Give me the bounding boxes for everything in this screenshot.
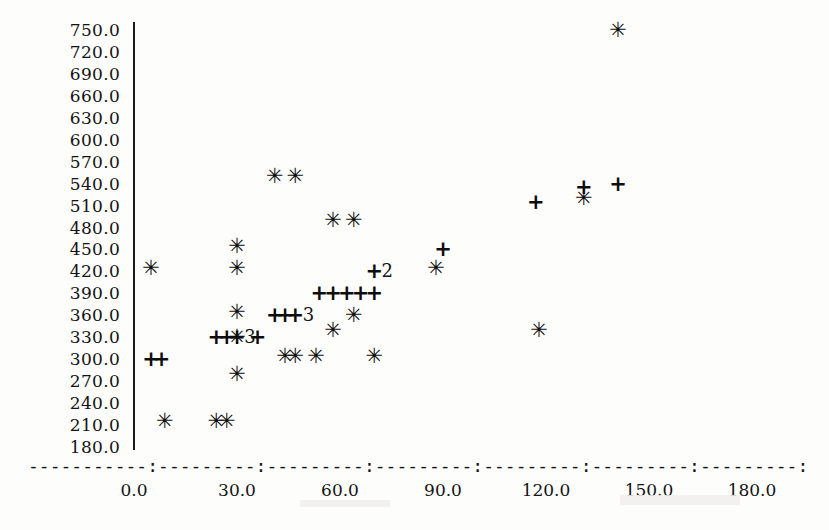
y-axis-tick-label: 750.0: [70, 22, 120, 39]
y-axis-tick-label: 510.0: [70, 198, 120, 215]
overplot-count-label: 3: [244, 328, 255, 346]
data-point-star: ✳: [345, 305, 363, 325]
data-point-plus: +: [287, 305, 305, 325]
y-axis-tick-label: 660.0: [70, 88, 120, 105]
y-axis-tick-label: 210.0: [70, 417, 120, 434]
data-point-star: ✳: [228, 302, 246, 322]
scatter-plot: 750.0720.0690.0660.0630.0600.0570.0540.0…: [0, 0, 829, 530]
y-axis-tick-label: 270.0: [70, 373, 120, 390]
x-axis-tick-label: 120.0: [522, 482, 571, 499]
y-axis-line: [133, 22, 135, 450]
data-point-star: ✳: [142, 258, 160, 278]
y-axis-tick-label: 450.0: [70, 241, 120, 258]
data-point-star: ✳: [307, 346, 325, 366]
scan-artifact: [300, 500, 390, 507]
data-point-plus: +: [575, 177, 593, 197]
scan-artifact: [620, 495, 740, 505]
y-axis-tick-label: 180.0: [70, 439, 120, 456]
data-point-star: ✳: [228, 258, 246, 278]
data-point-star: ✳: [218, 411, 236, 431]
chart-page: 750.0720.0690.0660.0630.0600.0570.0540.0…: [0, 0, 829, 530]
x-axis-tick-label: 90.0: [424, 482, 462, 499]
data-point-star: ✳: [609, 20, 627, 40]
data-point-plus: +: [153, 349, 171, 369]
x-axis-line: -----------:---------:---------:--------…: [28, 460, 808, 472]
data-point-plus: +: [366, 261, 384, 281]
y-axis-tick-label: 480.0: [70, 220, 120, 237]
y-axis-tick-label: 630.0: [70, 110, 120, 127]
y-axis-tick-label: 300.0: [70, 351, 120, 368]
x-axis-tick-label: 0.0: [120, 482, 147, 499]
overplot-count-label: 3: [303, 306, 314, 324]
data-point-plus: +: [434, 239, 452, 259]
y-axis-tick-label: 420.0: [70, 263, 120, 280]
y-axis-tick-label: 390.0: [70, 285, 120, 302]
data-point-star: ✳: [324, 210, 342, 230]
y-axis-tick-label: 570.0: [70, 154, 120, 171]
x-axis-tick-label: 30.0: [218, 482, 256, 499]
data-point-star: ✳: [266, 166, 284, 186]
y-axis-tick-label: 690.0: [70, 66, 120, 83]
data-point-star: ✳: [228, 364, 246, 384]
data-point-plus: +: [609, 174, 627, 194]
y-axis-tick-label: 240.0: [70, 395, 120, 412]
overplot-count-label: 2: [382, 262, 393, 280]
y-axis-tick-label: 600.0: [70, 132, 120, 149]
data-point-plus: +: [527, 192, 545, 212]
data-point-star: ✳: [530, 320, 548, 340]
y-axis-tick-labels: 750.0720.0690.0660.0630.0600.0570.0540.0…: [0, 0, 128, 530]
data-point-plus: +: [366, 283, 384, 303]
data-point-star: ✳: [345, 210, 363, 230]
x-axis-tick-label: 60.0: [321, 482, 359, 499]
data-point-plus: +: [228, 327, 246, 347]
y-axis-tick-label: 330.0: [70, 329, 120, 346]
data-point-star: ✳: [156, 411, 174, 431]
data-point-star: ✳: [228, 236, 246, 256]
data-point-star: ✳: [366, 346, 384, 366]
data-point-star: ✳: [324, 320, 342, 340]
data-point-star: ✳: [287, 166, 305, 186]
y-axis-tick-label: 360.0: [70, 307, 120, 324]
y-axis-tick-label: 720.0: [70, 44, 120, 61]
y-axis-tick-label: 540.0: [70, 176, 120, 193]
data-point-star: ✳: [287, 346, 305, 366]
